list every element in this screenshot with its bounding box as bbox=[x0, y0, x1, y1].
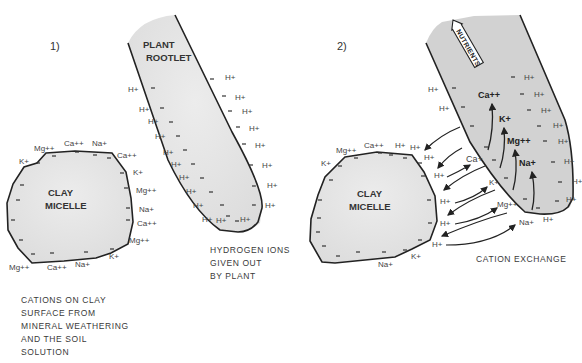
clay-micelle-2: CLAY MICELLE bbox=[310, 152, 437, 263]
svg-text:AND THE SOIL: AND THE SOIL bbox=[21, 334, 87, 344]
svg-text:Mg++: Mg++ bbox=[497, 200, 518, 209]
root-ion-ca: Ca++ bbox=[478, 90, 500, 100]
svg-text:H+: H+ bbox=[148, 117, 159, 126]
svg-text:H+: H+ bbox=[410, 143, 421, 152]
svg-text:H+: H+ bbox=[553, 121, 564, 130]
svg-text:H+: H+ bbox=[265, 201, 276, 210]
svg-text:H+: H+ bbox=[428, 85, 439, 94]
svg-text:H+: H+ bbox=[558, 137, 569, 146]
svg-text:H+: H+ bbox=[202, 215, 213, 224]
root-ion-na: Na+ bbox=[519, 158, 536, 168]
svg-text:CATIONS ON CLAY: CATIONS ON CLAY bbox=[21, 295, 106, 305]
svg-text:H+: H+ bbox=[566, 195, 577, 204]
svg-text:H+: H+ bbox=[139, 105, 150, 114]
svg-text:H+: H+ bbox=[439, 104, 450, 113]
svg-text:H+: H+ bbox=[432, 240, 443, 249]
svg-text:Mg++: Mg++ bbox=[136, 186, 157, 195]
svg-text:H+: H+ bbox=[242, 107, 253, 116]
svg-text:H+: H+ bbox=[240, 215, 251, 224]
svg-text:Mg++: Mg++ bbox=[336, 146, 357, 155]
svg-text:Ca++: Ca++ bbox=[117, 151, 137, 160]
micelle-1-label-line2: MICELLE bbox=[45, 200, 87, 211]
svg-text:H+: H+ bbox=[524, 73, 535, 82]
svg-text:H+: H+ bbox=[155, 132, 166, 141]
svg-text:H+: H+ bbox=[564, 157, 575, 166]
svg-text:BY PLANT: BY PLANT bbox=[210, 271, 256, 281]
svg-text:H+: H+ bbox=[262, 161, 273, 170]
svg-text:Mg++: Mg++ bbox=[9, 263, 30, 272]
svg-text:K+: K+ bbox=[109, 252, 119, 261]
svg-text:H+: H+ bbox=[186, 187, 197, 196]
micelle-2-label-line1: CLAY bbox=[357, 188, 383, 199]
svg-text:H+: H+ bbox=[541, 106, 552, 115]
root-ion-mg: Mg++ bbox=[507, 136, 531, 146]
svg-text:H+: H+ bbox=[225, 73, 236, 82]
svg-text:H+: H+ bbox=[424, 153, 435, 162]
svg-text:Na+: Na+ bbox=[519, 218, 534, 227]
panel-1: 1) PLANT ROOTLET H+ H+ H+ H+ H+ H+ H+ H+… bbox=[7, 15, 290, 357]
panel-1-number: 1) bbox=[50, 40, 60, 52]
svg-text:Na+: Na+ bbox=[92, 139, 107, 148]
micelle-1-label-line1: CLAY bbox=[48, 187, 74, 198]
svg-text:SOLUTION: SOLUTION bbox=[21, 347, 69, 357]
svg-text:H+: H+ bbox=[235, 93, 246, 102]
rootlet-label-line2: ROOTLET bbox=[146, 52, 192, 63]
svg-text:H+: H+ bbox=[163, 148, 174, 157]
svg-text:H+: H+ bbox=[193, 201, 204, 210]
svg-text:Ca++: Ca++ bbox=[137, 219, 157, 228]
svg-text:Na+: Na+ bbox=[378, 260, 393, 269]
svg-text:Ca+: Ca+ bbox=[466, 154, 483, 164]
caption-cation-exchange: CATION EXCHANGE bbox=[476, 254, 567, 264]
panel-2-number: 2) bbox=[337, 40, 347, 52]
svg-text:K+: K+ bbox=[19, 157, 29, 166]
panel-2: 2) NUTRIENTS Ca++ K+ Mg++ Na+ H+ H+ H bbox=[310, 15, 582, 269]
root-ion-k: K+ bbox=[499, 114, 511, 124]
rootlet-label-line1: PLANT bbox=[143, 39, 175, 50]
svg-text:HYDROGEN IONS: HYDROGEN IONS bbox=[210, 245, 290, 255]
svg-text:GIVEN OUT: GIVEN OUT bbox=[210, 258, 262, 268]
svg-text:H+: H+ bbox=[179, 173, 190, 182]
svg-text:H+: H+ bbox=[543, 215, 554, 224]
micelle-2-label-line2: MICELLE bbox=[349, 201, 391, 212]
svg-text:MINERAL WEATHERING: MINERAL WEATHERING bbox=[21, 321, 129, 331]
svg-text:H+: H+ bbox=[572, 177, 582, 186]
svg-text:H+: H+ bbox=[395, 141, 406, 150]
svg-text:Ca++: Ca++ bbox=[47, 263, 67, 272]
svg-text:H+: H+ bbox=[249, 124, 260, 133]
svg-text:Ca++: Ca++ bbox=[364, 141, 384, 150]
svg-text:K+: K+ bbox=[489, 178, 499, 187]
svg-text:H+: H+ bbox=[216, 216, 227, 225]
svg-text:Ca++: Ca++ bbox=[64, 139, 84, 148]
caption-cations-on-clay: CATIONS ON CLAY SURFACE FROM MINERAL WEA… bbox=[21, 295, 129, 357]
svg-text:H+: H+ bbox=[440, 197, 451, 206]
clay-micelle-1: CLAY MICELLE bbox=[7, 151, 133, 263]
svg-text:H+: H+ bbox=[534, 90, 545, 99]
svg-text:H+: H+ bbox=[255, 141, 266, 150]
svg-text:H+: H+ bbox=[440, 219, 451, 228]
svg-text:K+: K+ bbox=[321, 159, 331, 168]
svg-text:K+: K+ bbox=[411, 252, 421, 261]
caption-hydrogen-ions: HYDROGEN IONS GIVEN OUT BY PLANT bbox=[210, 245, 290, 281]
svg-text:H+: H+ bbox=[128, 85, 139, 94]
svg-text:Mg++: Mg++ bbox=[34, 144, 55, 153]
svg-text:K+: K+ bbox=[133, 168, 143, 177]
cation-exchange-diagram: 1) PLANT ROOTLET H+ H+ H+ H+ H+ H+ H+ H+… bbox=[0, 0, 582, 363]
svg-text:SURFACE FROM: SURFACE FROM bbox=[21, 308, 96, 318]
svg-text:H+: H+ bbox=[171, 160, 182, 169]
svg-text:Mg++: Mg++ bbox=[129, 236, 150, 245]
svg-text:H+: H+ bbox=[434, 171, 445, 180]
svg-text:Na+: Na+ bbox=[75, 260, 90, 269]
svg-text:H+: H+ bbox=[267, 181, 278, 190]
svg-text:Na+: Na+ bbox=[139, 205, 154, 214]
